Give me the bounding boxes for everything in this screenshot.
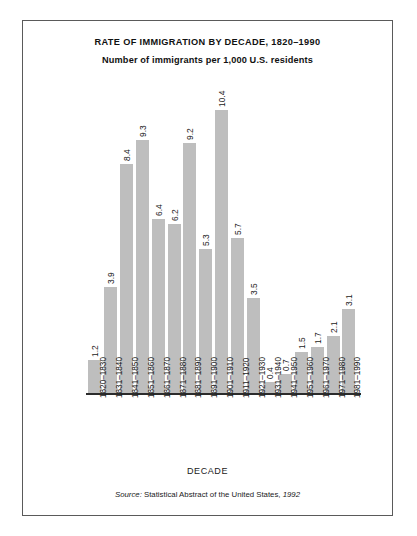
bar-value-label: 5.7 xyxy=(233,222,243,235)
bar-slot: 3.9 xyxy=(104,110,117,393)
bar[interactable] xyxy=(215,110,228,393)
bar-slot: 0.4 xyxy=(263,110,276,393)
bar-slot: 8.4 xyxy=(120,110,133,393)
x-tick-label: 1831–1840 xyxy=(115,357,124,398)
chart-subtitle: Number of immigrants per 1,000 U.S. resi… xyxy=(22,55,393,65)
bar-value-label: 5.3 xyxy=(201,233,211,246)
bar-slot: 3.5 xyxy=(247,110,260,393)
bar-value-label: 1.7 xyxy=(313,331,323,344)
immigration-rate-chart-figure: RATE OF IMMIGRATION BY DECADE, 1820–1990… xyxy=(0,0,417,536)
x-tick-label: 1891–1900 xyxy=(210,357,219,398)
bar-value-label: 6.4 xyxy=(154,203,164,216)
bar[interactable] xyxy=(183,143,196,393)
source-year: 1992 xyxy=(283,490,300,499)
x-axis-title: DECADE xyxy=(22,466,393,476)
x-tick-label: 1901–1910 xyxy=(226,357,235,398)
bar-slot: 6.4 xyxy=(152,110,165,393)
bar-slot: 3.1 xyxy=(342,110,355,393)
x-tick-label: 1971–1980 xyxy=(338,357,347,398)
bar-value-label: 10.4 xyxy=(217,94,227,107)
x-tick-label: 1911–1920 xyxy=(242,358,251,398)
bar-slot: 1.2 xyxy=(88,110,101,393)
source-body: Statistical Abstract of the United State… xyxy=(144,490,281,499)
x-tick-label: 1881–1890 xyxy=(194,357,203,398)
x-tick-label: 1841–1850 xyxy=(131,357,140,398)
chart-title: RATE OF IMMIGRATION BY DECADE, 1820–1990 xyxy=(22,37,393,47)
bar-value-label: 9.2 xyxy=(185,127,195,140)
bar-value-label: 6.2 xyxy=(170,208,180,221)
x-tick-label: 1921–1930 xyxy=(258,357,267,398)
bar-slot: 0.7 xyxy=(279,110,292,393)
bar[interactable] xyxy=(136,140,149,393)
bar-slot: 5.3 xyxy=(199,110,212,393)
x-tick-label: 1861–1870 xyxy=(163,357,172,398)
bar-slot: 2.1 xyxy=(327,110,340,393)
bar-slot: 6.2 xyxy=(168,110,181,393)
source-note: Source: Statistical Abstract of the Unit… xyxy=(22,490,393,499)
x-axis-line xyxy=(86,393,361,395)
x-tick-label: 1981–1990 xyxy=(353,357,362,398)
source-prefix: Source: xyxy=(115,490,142,499)
x-tick-label: 1941–1950 xyxy=(290,357,299,398)
x-tick-label: 1931–1940 xyxy=(274,357,283,398)
bar-slot: 1.7 xyxy=(311,110,324,393)
bar-value-label: 9.3 xyxy=(138,124,148,137)
bar-value-label: 3.9 xyxy=(106,271,116,284)
bar-slot: 9.2 xyxy=(183,110,196,393)
bar-value-label: 1.5 xyxy=(297,336,307,349)
x-tick-label: 1951–1960 xyxy=(306,357,315,398)
x-tick-label: 1820–1830 xyxy=(99,357,108,398)
bar-value-label: 1.2 xyxy=(90,344,100,357)
x-tick-label: 1851–1860 xyxy=(147,357,156,398)
bar-slot: 10.4 xyxy=(215,110,228,393)
bar-value-label: 2.1 xyxy=(329,320,339,333)
bar-slot: 1.5 xyxy=(295,110,308,393)
x-tick-label: 1961–1970 xyxy=(322,357,331,398)
bar-slot: 9.3 xyxy=(136,110,149,393)
bar-value-label: 8.4 xyxy=(122,148,132,161)
bar-value-label: 3.1 xyxy=(344,293,354,306)
plot-area: 1.23.98.49.36.46.29.25.310.45.73.50.40.7… xyxy=(88,110,358,393)
bar-value-label: 3.5 xyxy=(249,282,259,295)
bar-slot: 5.7 xyxy=(231,110,244,393)
x-tick-label: 1871–1880 xyxy=(179,357,188,398)
